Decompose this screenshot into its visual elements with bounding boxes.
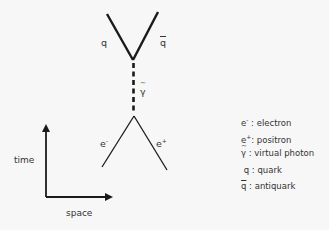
quark-label: q: [101, 38, 107, 48]
legend-item-antiquark: q : antiquark: [241, 178, 314, 195]
legend-item-positron: e+: positron: [241, 129, 314, 146]
virtual-photon-label: γ: [140, 87, 146, 97]
antiquark-line: [133, 12, 158, 60]
antiquark-label: q: [160, 38, 166, 48]
legend-item-electron: e- : electron: [241, 112, 314, 129]
space-axis-label: space: [66, 209, 92, 218]
quark-line: [107, 14, 133, 60]
legend: e- : electron e+: positron γ : virtual p…: [241, 112, 314, 195]
electron-label: e-: [100, 138, 108, 149]
positron-label: e+: [156, 138, 167, 149]
legend-item-virtual-photon: γ : virtual photon: [241, 145, 314, 162]
legend-item-quark: q : quark: [241, 162, 314, 179]
time-axis-label: time: [14, 156, 34, 165]
